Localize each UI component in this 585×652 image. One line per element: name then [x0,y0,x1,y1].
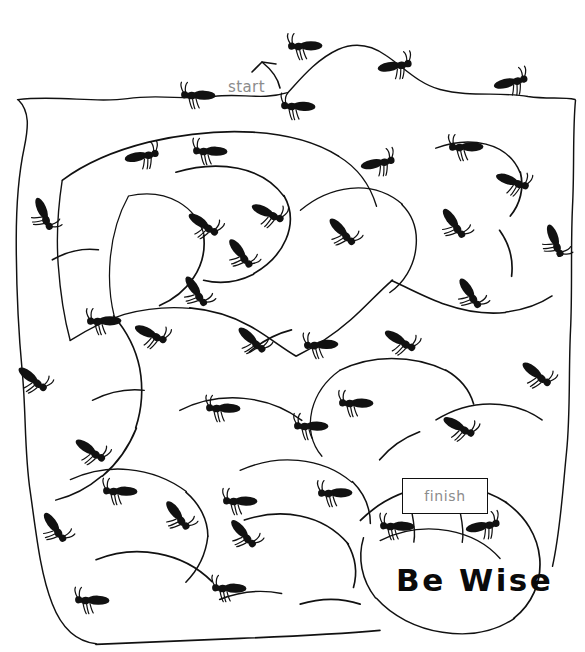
ant-icon [102,476,139,506]
ant-icon [491,161,534,200]
ant-icon [437,405,481,447]
ant-icon [379,511,416,541]
finish-label: finish [424,488,465,504]
ant-icon [246,192,290,233]
ant-icon [515,352,559,396]
ant-icon [68,428,112,471]
motto-text: Be Wise [396,562,553,598]
ant-icon [287,30,324,61]
ant-icon [192,136,229,166]
ant-icon [74,585,111,615]
ant-icon [129,313,173,354]
maze-worksheet: start finish Be Wise [0,0,585,652]
ant-icon [376,51,413,81]
ant-icon [448,131,485,162]
ant-icon [220,231,262,275]
finish-sign: finish [402,478,488,514]
ant-icon [359,147,396,178]
ant-icon [491,66,529,98]
maze-line-art [0,0,585,652]
maze-walls [16,45,575,644]
ant-icon [180,80,217,110]
ant-icon [317,477,354,508]
ant-icon [433,201,474,245]
ant-icon [321,209,364,253]
ant-icon [338,388,375,418]
ant-icon [280,91,316,120]
ant-icon [211,573,248,603]
ant-icon [123,141,160,171]
ant-icon [537,220,573,261]
ant-icon [222,511,264,555]
ant-icon [11,357,55,401]
ant-icon [222,486,259,516]
ant-icon [34,505,75,549]
ant-figures [11,30,574,614]
ant-icon [378,319,422,361]
start-label: start [228,78,265,96]
ant-icon [86,305,123,336]
